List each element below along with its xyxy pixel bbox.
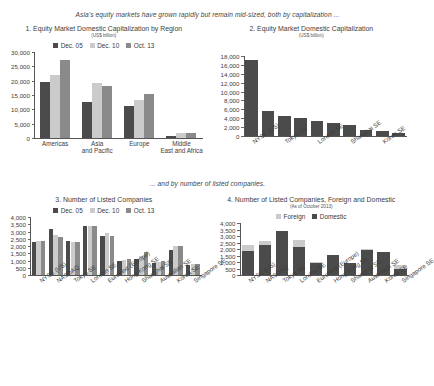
y-tick-label: 0 (0, 272, 26, 279)
y-tick-label: 20,000 (0, 77, 30, 84)
y-tick-label: 0 (0, 135, 30, 142)
y-tick-label: 2,000 (0, 243, 26, 250)
panel4-subtitle: (As of October 2013) (208, 204, 416, 210)
panel-equity-capitalization-by-region: 1. Equity Market Domestic Capitalization… (0, 18, 208, 174)
y-tick-label: 8,000 (208, 97, 240, 104)
bar (166, 136, 176, 138)
legend-item-dec05[interactable]: Dec. 05 (53, 42, 83, 49)
panel2-plot: 02,0004,0006,0008,00010,00012,00014,0001… (208, 56, 416, 174)
panel2-title: 2. Equity Market Domestic Capitalization (208, 24, 416, 33)
y-tick-label: 14,000 (208, 70, 240, 77)
x-axis (34, 138, 203, 139)
legend-swatch-dec05 (53, 43, 58, 48)
bar (41, 241, 45, 275)
x-tick-label: Asiaand Pacific (76, 140, 118, 155)
y-tick-label: 2,000 (208, 246, 236, 253)
y-tick-label: 30,000 (0, 49, 30, 56)
banner-capitalization: Asia's equity markets have grown rapidly… (0, 0, 415, 18)
panel1-subtitle: (US$ billion) (0, 33, 208, 39)
bar (50, 75, 60, 138)
y-tick-label: 5,000 (0, 120, 30, 127)
y-tick-label: 500 (0, 264, 26, 271)
y-tick-label: 0 (208, 272, 236, 279)
legend-item-oct13[interactable]: Oct. 13 (126, 42, 154, 49)
y-tick-label: 4,000 (208, 220, 236, 227)
y-tick-label: 3,000 (208, 233, 236, 240)
legend-item-oct13-p3[interactable]: Oct. 13 (126, 207, 154, 214)
legend-item-dec10-p3[interactable]: Dec. 10 (90, 207, 120, 214)
y-axis (240, 223, 241, 275)
y-tick-label: 2,500 (208, 239, 236, 246)
bar-foreign (361, 249, 373, 250)
y-tick-label: 10,000 (208, 88, 240, 95)
panel2-subtitle: (US$ billion) (208, 33, 416, 39)
legend-swatch-oct13 (126, 43, 131, 48)
panel4-title: 4. Number of Listed Companies, Foreign a… (208, 195, 416, 204)
x-tick-label: MiddleEast and Africa (160, 140, 202, 155)
legend-swatch-oct13-p3 (126, 208, 131, 213)
bar (60, 60, 70, 138)
y-tick-label: 2,500 (0, 235, 26, 242)
panel4-plot: 05001,0001,5002,0002,5003,0003,5004,000N… (208, 223, 416, 313)
y-tick-label: 3,500 (208, 226, 236, 233)
y-tick-label: 12,000 (208, 79, 240, 86)
legend-label-dec10-p3: Dec. 10 (97, 207, 119, 214)
y-tick-label: 10,000 (0, 106, 30, 113)
bar (124, 106, 134, 138)
y-tick-label: 15,000 (0, 92, 30, 99)
legend-label-domestic: Domestic (320, 213, 347, 220)
y-tick-label: 1,500 (208, 252, 236, 259)
legend-swatch-dec05-p3 (53, 208, 58, 213)
bar (245, 60, 258, 136)
bar-domestic (242, 251, 254, 275)
panel1-legend: Dec. 05 Dec. 10 Oct. 13 (0, 42, 208, 49)
y-tick-label: 4,000 (0, 214, 26, 221)
bar (102, 86, 112, 138)
bar-foreign (259, 241, 271, 245)
y-tick-label: 2,000 (208, 124, 240, 131)
panel1-plot: 05,00010,00015,00020,00025,00030,000Amer… (0, 52, 208, 164)
legend-item-dec05-p3[interactable]: Dec. 05 (53, 207, 83, 214)
legend-swatch-dec10 (90, 43, 95, 48)
y-axis (34, 52, 35, 138)
panel3-legend: Dec. 05 Dec. 10 Oct. 13 (0, 207, 208, 214)
panel3-title: 3. Number of Listed Companies (0, 195, 208, 204)
panel-listed-companies-foreign-domestic: 4. Number of Listed Companies, Foreign a… (208, 189, 416, 315)
x-tick-label: Americas (34, 140, 76, 147)
legend-item-dec10[interactable]: Dec. 10 (90, 42, 120, 49)
banner-listed-companies: ... and by number of listed companies. (0, 174, 415, 187)
bar (144, 94, 154, 138)
legend-label-oct13: Oct. 13 (134, 42, 155, 49)
panel-equity-capitalization-exchanges: 2. Equity Market Domestic Capitalization… (208, 18, 416, 174)
bar (186, 133, 196, 138)
bar (40, 82, 50, 138)
bar (134, 100, 144, 138)
y-tick-label: 4,000 (208, 115, 240, 122)
legend-item-foreign[interactable]: Foreign (276, 213, 305, 220)
legend-swatch-foreign (276, 214, 281, 219)
legend-label-oct13-p3: Oct. 13 (134, 207, 155, 214)
bar (176, 133, 186, 138)
bar (82, 102, 92, 138)
x-tick-label: Europe (118, 140, 160, 147)
legend-label-dec05: Dec. 05 (61, 42, 83, 49)
y-tick-label: 1,500 (0, 250, 26, 257)
y-tick-label: 3,000 (0, 228, 26, 235)
y-tick-label: 500 (208, 265, 236, 272)
bar (92, 83, 102, 138)
legend-swatch-dec10-p3 (90, 208, 95, 213)
legend-label-foreign: Foreign (284, 213, 306, 220)
panel-number-listed-companies: 3. Number of Listed Companies Dec. 05 De… (0, 189, 208, 315)
y-tick-label: 1,000 (208, 259, 236, 266)
legend-swatch-domestic (312, 214, 317, 219)
y-tick-label: 1,000 (0, 257, 26, 264)
charts-row-bottom: 3. Number of Listed Companies Dec. 05 De… (0, 189, 415, 315)
legend-label-dec05-p3: Dec. 05 (61, 207, 83, 214)
legend-item-domestic[interactable]: Domestic (312, 213, 346, 220)
bar-foreign (242, 245, 254, 252)
panel4-legend: Foreign Domestic (208, 213, 416, 220)
bar-foreign (293, 240, 305, 247)
y-tick-label: 3,500 (0, 221, 26, 228)
panel3-plot: 05001,0001,5002,0002,5003,0003,5004,000N… (0, 217, 208, 315)
y-tick-label: 16,000 (208, 61, 240, 68)
